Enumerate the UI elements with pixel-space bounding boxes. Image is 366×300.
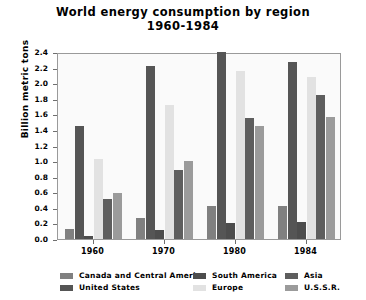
x-axis-tick-label: 1984 bbox=[276, 247, 336, 256]
legend-label: South America bbox=[212, 272, 277, 280]
bar bbox=[136, 218, 145, 239]
legend-swatch bbox=[60, 273, 73, 279]
y-axis-tick-label: 0.4 bbox=[24, 205, 48, 212]
chart-subtitle: 1960-1984 bbox=[0, 19, 366, 33]
bar bbox=[307, 77, 316, 239]
bar bbox=[94, 159, 103, 239]
legend-item[interactable]: South America bbox=[193, 272, 277, 280]
bar bbox=[226, 223, 235, 239]
bar bbox=[113, 193, 122, 239]
legend-item[interactable]: Europe bbox=[193, 284, 243, 292]
bar bbox=[84, 236, 93, 239]
x-axis-tick-mark bbox=[306, 240, 307, 244]
y-axis-tick-label: 2.4 bbox=[24, 49, 48, 56]
bar bbox=[278, 206, 287, 239]
y-axis-tick-label: 0.0 bbox=[24, 236, 48, 243]
bar bbox=[245, 118, 254, 239]
legend-label: Europe bbox=[212, 284, 243, 292]
bar-group bbox=[278, 54, 335, 239]
y-axis-tick-label: 2.0 bbox=[24, 80, 48, 87]
y-axis-tick-label: 1.6 bbox=[24, 111, 48, 118]
bar-group bbox=[207, 54, 264, 239]
y-axis-tick-label: 0.8 bbox=[24, 174, 48, 181]
bar bbox=[174, 170, 183, 239]
legend-label: U.S.S.R. bbox=[304, 284, 340, 292]
legend-label: Asia bbox=[304, 272, 323, 280]
bar bbox=[326, 117, 335, 239]
y-axis-tick-label: 1.0 bbox=[24, 158, 48, 165]
bar bbox=[75, 126, 84, 239]
legend-swatch bbox=[193, 285, 206, 291]
bar-group bbox=[136, 54, 193, 239]
x-axis-tick-label: 1960 bbox=[63, 247, 123, 256]
y-axis-tick-label: 2.2 bbox=[24, 65, 48, 72]
chart-container: World energy consumption by region 1960-… bbox=[0, 0, 366, 300]
y-axis-tick-label: 0.6 bbox=[24, 189, 48, 196]
legend-item[interactable]: Asia bbox=[285, 272, 323, 280]
y-axis-tick-label: 1.2 bbox=[24, 143, 48, 150]
x-axis-tick-mark bbox=[235, 240, 236, 244]
chart-title-line1: World energy consumption by region bbox=[56, 5, 310, 19]
bar bbox=[165, 105, 174, 239]
y-axis-title: Billion metric tons bbox=[20, 19, 30, 159]
y-axis-tick-mark bbox=[53, 240, 57, 241]
legend-item[interactable]: U.S.S.R. bbox=[285, 284, 340, 292]
x-axis-tick-label: 1980 bbox=[205, 247, 265, 256]
bar bbox=[207, 206, 216, 240]
chart-legend: Canada and Central AmericaUnited StatesS… bbox=[60, 272, 360, 296]
legend-item[interactable]: United States bbox=[60, 284, 140, 292]
bar bbox=[217, 52, 226, 239]
y-axis-tick-label: 1.4 bbox=[24, 127, 48, 134]
y-axis-tick-label: 1.8 bbox=[24, 96, 48, 103]
bar bbox=[184, 161, 193, 239]
legend-item[interactable]: Canada and Central America bbox=[60, 272, 206, 280]
bar bbox=[146, 66, 155, 239]
bar bbox=[65, 229, 74, 239]
bar bbox=[316, 95, 325, 239]
legend-swatch bbox=[60, 285, 73, 291]
bar bbox=[103, 199, 112, 239]
legend-swatch bbox=[193, 273, 206, 279]
y-axis-tick-label: 0.2 bbox=[24, 220, 48, 227]
x-axis-tick-label: 1970 bbox=[134, 247, 194, 256]
x-axis-tick-mark bbox=[164, 240, 165, 244]
chart-title: World energy consumption by region 1960-… bbox=[0, 5, 366, 33]
bar bbox=[297, 222, 306, 239]
legend-swatch bbox=[285, 273, 298, 279]
legend-swatch bbox=[285, 285, 298, 291]
bars-layer bbox=[58, 54, 340, 239]
legend-label: United States bbox=[79, 284, 140, 292]
bar bbox=[155, 230, 164, 239]
bar bbox=[288, 62, 297, 239]
x-axis-tick-mark bbox=[93, 240, 94, 244]
bar bbox=[236, 71, 245, 239]
legend-label: Canada and Central America bbox=[79, 272, 206, 280]
plot-area bbox=[57, 53, 341, 240]
bar bbox=[255, 126, 264, 239]
bar-group bbox=[65, 54, 122, 239]
